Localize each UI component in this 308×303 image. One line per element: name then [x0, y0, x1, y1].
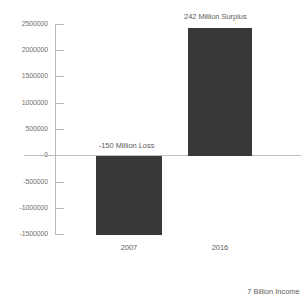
- chart-caption: 7 Billion Income: [248, 287, 300, 296]
- y-axis-tick--500000: [56, 182, 64, 183]
- bar-chart: 2500000 2000000 1500000 1000000 500000 0…: [0, 0, 308, 303]
- y-axis-label-500000: 500000: [0, 125, 48, 133]
- y-axis-label-2500000: 2500000: [0, 20, 48, 28]
- bar-2007: [96, 156, 162, 235]
- y-axis-tick-500000: [56, 129, 64, 130]
- y-axis-label-2000000: 2000000: [0, 46, 48, 54]
- y-axis-tick--1500000: [56, 234, 64, 235]
- y-axis-label-1500000: 1500000: [0, 72, 48, 80]
- y-axis-label-1000000: 1000000: [0, 99, 48, 107]
- y-axis-tick-2500000: [56, 24, 64, 25]
- data-label-2007: -150 Million Loss: [99, 141, 155, 150]
- y-axis-tick-1500000: [56, 76, 64, 77]
- x-axis-label-2007: 2007: [101, 243, 157, 252]
- y-axis-tick-2000000: [56, 50, 64, 51]
- y-axis-label--1500000: -1500000: [0, 230, 48, 238]
- x-axis-label-2016: 2016: [192, 243, 248, 252]
- data-label-2016: 242 Million Surplus: [184, 12, 247, 21]
- y-axis-label--1000000: -1000000: [0, 204, 48, 212]
- bar-2016: [188, 28, 252, 156]
- y-axis-tick-1000000: [56, 103, 64, 104]
- zero-baseline: [24, 155, 301, 156]
- y-axis-label--500000: -500000: [0, 178, 48, 186]
- y-axis-tick--1000000: [56, 208, 64, 209]
